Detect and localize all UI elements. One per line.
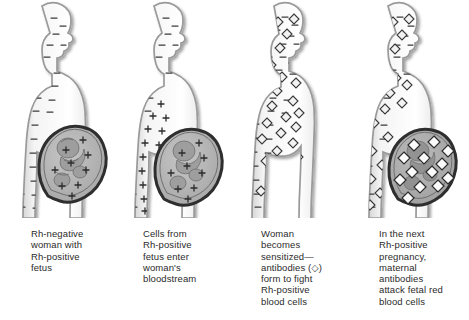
panel-1-illustration	[6, 0, 123, 218]
caption-line: bloodstream	[143, 273, 243, 284]
panel-3-illustration	[236, 0, 353, 218]
uterus-panel-4	[389, 129, 456, 205]
uterus-panel-1	[39, 126, 106, 202]
caption-line: maternal	[379, 262, 469, 273]
caption-line: becomes	[261, 239, 361, 250]
panel-2: Cells from Rh-positive fetus enter woman…	[118, 0, 235, 320]
panel-2-caption: Cells from Rh-positive fetus enter woman…	[143, 228, 243, 284]
panel-4-illustration	[352, 0, 469, 218]
panel-4-caption: In the next Rh-positive pregnancy, mater…	[379, 228, 469, 307]
caption-line: pregnancy,	[379, 251, 469, 262]
caption-line: fetus enter	[143, 251, 243, 262]
panel-2-illustration	[118, 0, 235, 218]
caption-line: woman with	[31, 239, 131, 250]
rh-incompatibility-diagram: Rh-negative woman with Rh-positive fetus	[0, 0, 469, 320]
caption-line: Rh-positive	[31, 251, 131, 262]
caption-line: attack fetal red	[379, 284, 469, 295]
panel-1: Rh-negative woman with Rh-positive fetus	[6, 0, 123, 320]
caption-line: sensitized—	[261, 251, 361, 262]
panel-3-caption: Woman becomes sensitized— antibodies (◇)…	[261, 228, 361, 307]
caption-line: fetus	[31, 262, 131, 273]
caption-line: blood cells	[261, 296, 361, 307]
caption-line: blood cells	[379, 296, 469, 307]
caption-line: antibodies	[379, 273, 469, 284]
caption-line: Woman	[261, 228, 361, 239]
caption-line: In the next	[379, 228, 469, 239]
panel-4: In the next Rh-positive pregnancy, mater…	[352, 0, 469, 320]
caption-line: Cells from	[143, 228, 243, 239]
caption-line: Rh-positive	[379, 239, 469, 250]
caption-line: Rh-negative	[31, 228, 131, 239]
uterus-panel-2	[155, 129, 222, 205]
caption-line: Rh-positive	[143, 239, 243, 250]
caption-line-antibodies: antibodies (◇)	[261, 262, 361, 273]
caption-line: form to fight	[261, 273, 361, 284]
caption-line: Rh-positive	[261, 284, 361, 295]
panel-3: Woman becomes sensitized— antibodies (◇)…	[236, 0, 353, 320]
caption-line: woman's	[143, 262, 243, 273]
panel-1-caption: Rh-negative woman with Rh-positive fetus	[31, 228, 131, 273]
